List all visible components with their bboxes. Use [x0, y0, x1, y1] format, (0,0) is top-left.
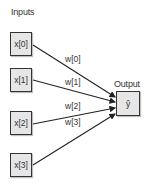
weight-label-w0: w[0] [65, 54, 81, 64]
edge-x0 [33, 45, 115, 97]
weight-label-w2: w[2] [65, 101, 81, 111]
input-node-x2: x[2] [10, 111, 32, 135]
weight-label-w3: w[3] [65, 117, 81, 127]
input-node-x0: x[0] [10, 32, 32, 56]
output-node-yhat: ŷ [116, 91, 140, 116]
weight-label-w1: w[1] [65, 77, 81, 87]
input-node-x1: x[1] [10, 68, 32, 92]
input-node-x3: x[3] [10, 153, 32, 177]
